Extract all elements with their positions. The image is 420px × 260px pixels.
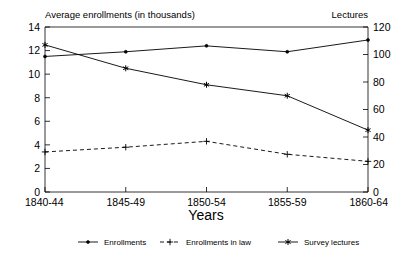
legend-item-survey-lectures[interactable]: Survey lectures bbox=[278, 238, 359, 247]
left-axis-header-label: Average enrollments (in thousands) bbox=[45, 9, 195, 20]
right-axis-header-label: Lectures bbox=[332, 9, 369, 20]
legend-marker-dot bbox=[87, 241, 90, 244]
legend-item-enrollments[interactable]: Enrollments bbox=[78, 238, 146, 247]
y-axis-right-tick-label: 100 bbox=[373, 48, 391, 60]
y-axis-left-tick-label: 12 bbox=[28, 44, 40, 56]
y-axis-left-tick-label: 14 bbox=[28, 21, 40, 33]
y-axis-right-tick-label: 60 bbox=[373, 103, 385, 115]
y-axis-left-ticks: 02468101214 bbox=[28, 21, 50, 198]
line-chart: Average enrollments (in thousands) Lectu… bbox=[0, 0, 420, 260]
legend-label: Enrollments bbox=[104, 238, 146, 247]
series-point-enrollments bbox=[44, 55, 47, 58]
y-axis-left-tick-label: 4 bbox=[34, 139, 40, 151]
series-point-enrollments bbox=[124, 50, 127, 53]
data-series-layer bbox=[42, 38, 371, 164]
legend-label: Enrollments in law bbox=[186, 238, 251, 247]
legend-item-enrollments-in-law[interactable]: Enrollments in law bbox=[160, 238, 251, 247]
series-point-enrollments-in-law bbox=[203, 138, 209, 144]
x-axis-tick-label: 1845-49 bbox=[106, 196, 145, 208]
series-point-enrollments-in-law bbox=[284, 151, 290, 157]
y-axis-left-tick-label: 10 bbox=[28, 68, 40, 80]
y-axis-left-tick-label: 2 bbox=[34, 162, 40, 174]
series-point-enrollments bbox=[205, 44, 208, 47]
x-axis-tick-label: 1840-44 bbox=[25, 196, 64, 208]
series-point-enrollments bbox=[286, 50, 289, 53]
series-point-enrollments-in-law bbox=[365, 158, 371, 164]
x-axis-tick-label: 1855-59 bbox=[268, 196, 307, 208]
series-line-enrollments bbox=[45, 40, 368, 57]
x-axis-ticks: 1840-441845-491850-541855-591860-64 bbox=[25, 187, 388, 208]
series-point-survey-lectures bbox=[42, 42, 47, 48]
series-point-enrollments bbox=[367, 38, 370, 41]
y-axis-right-tick-label: 20 bbox=[373, 158, 385, 170]
x-axis-tick-label: 1860-64 bbox=[349, 196, 388, 208]
y-axis-right-tick-label: 80 bbox=[373, 76, 385, 88]
y-axis-right-tick-label: 120 bbox=[373, 21, 391, 33]
legend-label: Survey lectures bbox=[304, 238, 359, 247]
y-axis-left-tick-label: 8 bbox=[34, 92, 40, 104]
y-axis-left-tick-label: 6 bbox=[34, 115, 40, 127]
series-point-survey-lectures bbox=[365, 127, 370, 133]
y-axis-right-ticks: 020406080100120 bbox=[363, 21, 391, 198]
chart-figure: Average enrollments (in thousands) Lectu… bbox=[0, 0, 420, 260]
x-axis-title: Years bbox=[188, 207, 223, 223]
series-point-enrollments-in-law bbox=[42, 149, 48, 155]
series-point-enrollments-in-law bbox=[123, 144, 129, 150]
chart-legend: EnrollmentsEnrollments in lawSurvey lect… bbox=[78, 238, 359, 247]
legend-marker-plus bbox=[167, 239, 173, 245]
y-axis-right-tick-label: 40 bbox=[373, 131, 385, 143]
